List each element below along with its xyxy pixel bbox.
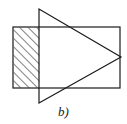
figure-container: b) [0,0,127,124]
hatched-region [14,28,40,88]
triangle-shape [39,9,121,103]
figure-caption: b) [0,104,127,120]
